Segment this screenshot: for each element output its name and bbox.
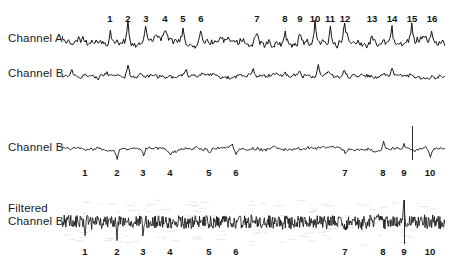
- marker-label: 5: [206, 166, 211, 180]
- marker-line-bottom: [404, 200, 405, 244]
- waveform-figure: 12345678910111213141516 Channel A Channe…: [0, 0, 462, 267]
- waveform-channel-a: [62, 20, 445, 62]
- marker-label: 3: [140, 166, 145, 180]
- marker-label: 6: [233, 245, 238, 259]
- marker-label: 1: [82, 166, 87, 180]
- marker-label: 9: [401, 245, 406, 259]
- marker-row-bottom: 12345678910: [0, 245, 462, 259]
- marker-label: 2: [114, 166, 119, 180]
- marker-label: 4: [167, 166, 172, 180]
- waveform-filtered-channel-b: [62, 200, 445, 244]
- marker-label: 9: [401, 166, 406, 180]
- marker-label: 1: [82, 245, 87, 259]
- marker-row-middle: 12345678910: [0, 166, 462, 180]
- marker-label: 6: [233, 166, 238, 180]
- waveform-channel-b-raw: [62, 62, 445, 90]
- marker-label: 10: [425, 245, 436, 259]
- marker-label: 4: [167, 245, 172, 259]
- trace-label-filtered-channel-b: Filtered Channel B: [8, 202, 64, 228]
- marker-label: 8: [380, 166, 385, 180]
- marker-label: 7: [342, 166, 347, 180]
- trace-label-channel-b-raw: Channel B: [8, 67, 64, 80]
- waveform-channel-b-second: [62, 134, 445, 164]
- marker-label: 8: [380, 245, 385, 259]
- marker-line-middle: [412, 126, 413, 160]
- marker-label: 10: [425, 166, 436, 180]
- trace-label-channel-a: Channel A: [8, 32, 63, 45]
- marker-label: 7: [342, 245, 347, 259]
- trace-label-channel-b-second: Channel B: [8, 141, 64, 154]
- marker-label: 2: [114, 245, 119, 259]
- marker-label: 3: [140, 245, 145, 259]
- marker-label: 5: [206, 245, 211, 259]
